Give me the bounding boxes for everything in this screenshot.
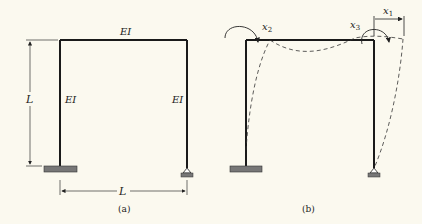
height-dim-label: L <box>25 93 33 106</box>
pin-support-a <box>181 168 193 177</box>
frame-a <box>60 40 187 168</box>
fixed-support-a <box>44 166 77 172</box>
x3-label: x3 <box>350 19 360 32</box>
right-column-ei-label: EI <box>171 94 184 105</box>
x1-label: x1 <box>383 5 393 18</box>
deflected-left-column <box>246 40 270 150</box>
deflected-beam <box>270 36 403 51</box>
frame-diagram: L L EI EI EI (a) <box>0 0 422 224</box>
span-dim-label: L <box>118 185 126 198</box>
caption-b: (b) <box>302 204 315 214</box>
deflected-shape <box>246 36 403 166</box>
panel-b: x2 x3 x1 (b) <box>225 5 404 214</box>
panel-a: L L EI EI EI (a) <box>25 26 193 214</box>
left-column-ei-label: EI <box>64 94 77 105</box>
caption-a: (a) <box>118 204 130 214</box>
x2-label: x2 <box>262 21 272 34</box>
frame-b <box>246 40 374 168</box>
translation-x1-arrow <box>374 16 404 36</box>
deflected-right-column <box>375 39 403 166</box>
pin-support-b <box>368 168 380 177</box>
beam-ei-label: EI <box>119 26 132 37</box>
fixed-support-b <box>230 166 262 172</box>
